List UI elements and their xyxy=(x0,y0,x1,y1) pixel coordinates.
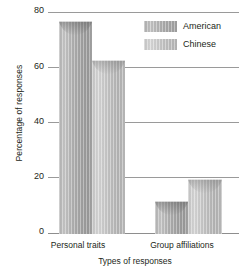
legend-label-american: American xyxy=(183,21,221,31)
bar-cap-rim xyxy=(188,179,222,180)
bar-chart: Percentage of responses 80 60 40 20 0 xyxy=(0,0,245,275)
legend-label-chinese: Chinese xyxy=(183,39,216,49)
y-tick-label-20: 20 xyxy=(18,172,44,181)
x-category-label-personal-traits: Personal traits xyxy=(38,240,118,250)
bar-chinese-personal-traits xyxy=(92,60,125,234)
legend-item-american: American xyxy=(144,19,244,33)
gridline-80 xyxy=(48,12,239,13)
bar-body xyxy=(92,60,125,234)
bar-body xyxy=(59,21,92,234)
legend: American Chinese xyxy=(144,19,244,55)
x-axis-title: Types of responses xyxy=(40,256,230,266)
bar-american-personal-traits xyxy=(59,21,92,234)
y-tick-label-40: 40 xyxy=(18,117,44,126)
bar-chinese-group-affiliations xyxy=(188,179,222,234)
y-tick-label-0: 0 xyxy=(18,227,44,236)
y-axis-title: Percentage of responses xyxy=(14,38,24,188)
y-tick-label-80: 80 xyxy=(18,6,44,15)
x-category-label-group-affiliations: Group affiliations xyxy=(134,240,230,250)
y-tick-label-60: 60 xyxy=(18,62,44,71)
bar-american-group-affiliations xyxy=(155,201,188,234)
legend-swatch-american-icon xyxy=(144,21,177,32)
bar-cap-rim xyxy=(59,21,92,22)
legend-swatch-chinese-icon xyxy=(144,39,177,50)
bar-cap-rim xyxy=(155,201,188,202)
legend-item-chinese: Chinese xyxy=(144,37,244,51)
bar-cap-rim xyxy=(92,60,125,61)
